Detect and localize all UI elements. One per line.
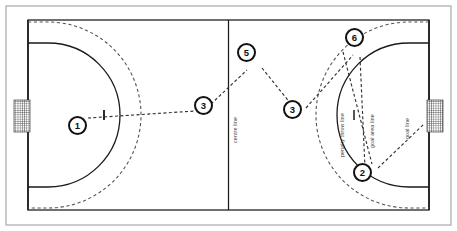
player-marker-2[interactable]: 2: [353, 163, 372, 182]
goal-net-right: [427, 100, 443, 132]
player-marker-6[interactable]: 6: [345, 28, 364, 47]
pass-6-to-2: [360, 57, 365, 168]
shot-2-to-goal: [378, 124, 424, 168]
player-marker-3-right[interactable]: 3: [283, 100, 302, 119]
handball-court-diagram: centre line penalty throw line goal area…: [0, 0, 457, 231]
label-goal-line: goal line: [404, 118, 410, 139]
label-penalty-throw-line: penalty throw line: [339, 113, 345, 157]
player-marker-3-left[interactable]: 3: [194, 96, 213, 115]
pass-lines-group: [88, 52, 424, 168]
label-goal-area-line: goal area line: [369, 114, 375, 148]
label-centre-line: centre line: [232, 117, 238, 143]
goal-net-left: [14, 100, 30, 132]
goal-area-line-left: [28, 43, 120, 187]
player-marker-5[interactable]: 5: [237, 43, 256, 62]
player-marker-1[interactable]: 1: [68, 116, 87, 135]
free-throw-line-left: [28, 22, 141, 208]
court-graphics: [0, 0, 457, 231]
run-6-to-2: [343, 52, 372, 164]
pass-5-to-3: [262, 68, 291, 104]
goal-area-line-right: [337, 43, 429, 187]
